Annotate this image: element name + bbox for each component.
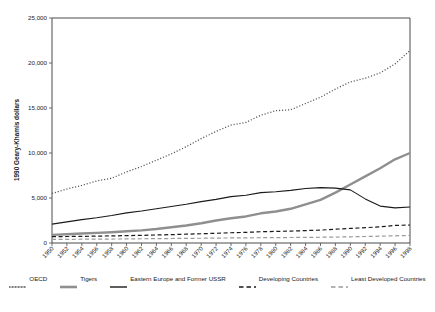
y-axis-ticks: 05,00010,00015,00020,00025,000 [28, 14, 52, 246]
y-tick-label: 25,000 [28, 14, 47, 21]
x-tick-label: 1984 [295, 245, 309, 259]
x-tick-label: 1956 [86, 245, 100, 259]
x-tick-label: 1994 [369, 245, 383, 259]
legend-label: Tigers [80, 276, 97, 282]
x-tick-label: 1962 [131, 245, 145, 259]
x-tick-label: 1950 [41, 245, 55, 259]
x-tick-label: 1972 [205, 245, 219, 259]
x-tick-label: 1976 [235, 245, 249, 259]
legend-label: Least Developed Countries [351, 276, 426, 282]
chart-legend: OECDTigersEastern Europe and Former USSR… [0, 276, 435, 282]
series-lines [52, 50, 410, 239]
chart-figure: 1990 Geary-Khamis dollars 05,00010,00015… [0, 0, 435, 312]
y-axis-title: 1990 Geary-Khamis dollars [13, 99, 21, 182]
x-tick-label: 1954 [71, 245, 85, 259]
x-tick-label: 1960 [116, 245, 130, 259]
legend-swatch-icon [9, 276, 26, 282]
x-tick-label: 1970 [190, 245, 204, 259]
legend-item[interactable]: Least Developed Countries [331, 276, 426, 282]
x-tick-label: 1980 [265, 245, 279, 259]
legend-item[interactable]: Tigers [60, 276, 97, 282]
x-tick-label: 1958 [101, 245, 115, 259]
x-tick-label: 1998 [399, 245, 413, 259]
plot-frame [52, 18, 410, 243]
x-tick-label: 1992 [354, 245, 368, 259]
legend-label: Eastern Europe and Former USSR [130, 276, 226, 282]
x-tick-label: 1974 [220, 245, 234, 259]
y-tick-label: 15,000 [28, 104, 47, 111]
legend-label: Developing Countries [259, 276, 318, 282]
x-tick-label: 1952 [56, 245, 70, 259]
x-tick-label: 1964 [146, 245, 160, 259]
legend-item[interactable]: OECD [9, 276, 47, 282]
legend-item[interactable]: Eastern Europe and Former USSR [110, 276, 226, 282]
series-line [52, 225, 410, 237]
series-line [52, 50, 410, 193]
legend-swatch-icon [239, 276, 256, 282]
line-chart: 1990 Geary-Khamis dollars 05,00010,00015… [0, 0, 435, 312]
x-tick-label: 1968 [175, 245, 189, 259]
x-tick-label: 1986 [310, 245, 324, 259]
x-tick-label: 1996 [384, 245, 398, 259]
legend-label: OECD [29, 276, 47, 282]
legend-item[interactable]: Developing Countries [239, 276, 318, 282]
y-tick-label: 10,000 [28, 149, 47, 156]
x-axis-ticks: 1950195219541956195819601962196419661968… [41, 243, 413, 259]
legend-swatch-icon [331, 276, 348, 282]
y-tick-label: 5,000 [32, 194, 48, 201]
x-tick-label: 1990 [340, 245, 354, 259]
y-axis-title-group: 1990 Geary-Khamis dollars [13, 99, 21, 182]
y-tick-label: 0 [44, 239, 48, 246]
x-tick-label: 1988 [325, 245, 339, 259]
x-tick-label: 1966 [161, 245, 175, 259]
figure-caption [0, 299, 435, 312]
x-tick-label: 1982 [280, 245, 294, 259]
x-tick-label: 1978 [250, 245, 264, 259]
legend-swatch-icon [110, 276, 127, 282]
legend-swatch-icon [60, 276, 77, 282]
y-tick-label: 20,000 [28, 59, 47, 66]
